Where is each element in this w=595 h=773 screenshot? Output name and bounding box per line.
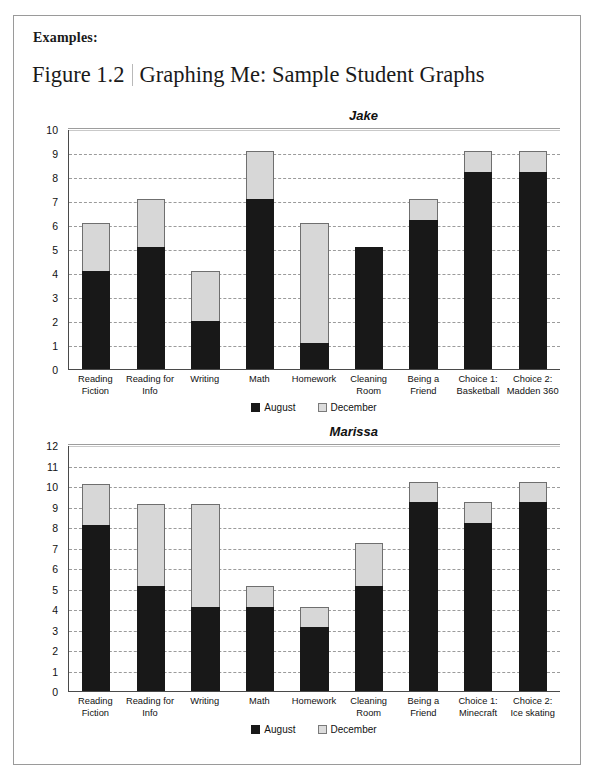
bar-segment-august [300, 627, 328, 691]
bar-segment-august [82, 525, 110, 691]
bar-slot [342, 130, 397, 369]
plot-marissa [68, 446, 560, 692]
stacked-bar[interactable] [355, 543, 383, 691]
stacked-bar[interactable] [409, 199, 437, 369]
stacked-bar[interactable] [246, 586, 274, 691]
x-axis-label-line: Room [342, 708, 395, 720]
x-axis-label: Math [232, 696, 287, 719]
bar-segment-august [300, 343, 328, 369]
bar-segment-august [191, 321, 219, 369]
x-axis-label-line: Being a [397, 374, 450, 386]
legend-label-december: December [331, 724, 377, 735]
legend-label-august: August [264, 402, 295, 413]
x-axis-label-line: Choice 2: [506, 696, 559, 708]
bar-segment-august [409, 220, 437, 369]
legend-swatch-december-icon [318, 725, 327, 734]
legend-item-august: August [251, 724, 295, 735]
x-axis-label-line: Room [342, 386, 395, 398]
stacked-bar[interactable] [137, 504, 165, 691]
stacked-bar[interactable] [82, 484, 110, 691]
bar-segment-december [137, 199, 165, 247]
stacked-bar[interactable] [191, 504, 219, 691]
y-tick-label: 7 [52, 543, 58, 555]
x-axis-label-line: Info [124, 386, 177, 398]
y-tick-label: 2 [52, 645, 58, 657]
bar-segment-august [246, 607, 274, 691]
stacked-bar[interactable] [82, 223, 110, 369]
stacked-bar[interactable] [137, 199, 165, 369]
bar-slot [178, 446, 233, 691]
x-axis-label-line: Friend [397, 386, 450, 398]
x-axis-label-line: Math [233, 696, 286, 708]
stacked-bar[interactable] [191, 271, 219, 369]
legend-swatch-august-icon [251, 725, 260, 734]
stacked-bar[interactable] [355, 247, 383, 369]
figure-title: Figure 1.2 Graphing Me: Sample Student G… [32, 62, 484, 88]
x-axis-label-line: Fiction [69, 708, 122, 720]
bar-group-marissa [69, 446, 560, 691]
y-tick-label: 8 [52, 522, 58, 534]
x-axis-label: Homework [287, 696, 342, 719]
y-tick-label: 6 [52, 220, 58, 232]
x-axis-label-line: Choice 1: [452, 696, 505, 708]
bar-segment-august [82, 271, 110, 369]
x-axis-label-line: Info [124, 708, 177, 720]
x-axis-label-line: Homework [288, 374, 341, 386]
bar-group-jake [69, 130, 560, 369]
examples-heading: Examples: [33, 30, 98, 46]
stacked-bar[interactable] [246, 151, 274, 369]
stacked-bar[interactable] [300, 607, 328, 691]
legend-jake: August December [68, 402, 560, 413]
chart-marissa: Marissa 0123456789101112 ReadingFictionR… [28, 424, 568, 744]
legend-swatch-december-icon [318, 403, 327, 412]
y-tick-label: 4 [52, 604, 58, 616]
bar-segment-august [246, 199, 274, 369]
figure-number: Figure 1.2 [32, 62, 125, 88]
bar-segment-august [519, 172, 547, 369]
legend-swatch-august-icon [251, 403, 260, 412]
stacked-bar[interactable] [464, 502, 492, 691]
bar-slot [69, 446, 124, 691]
bar-segment-december [137, 504, 165, 586]
stacked-bar[interactable] [519, 151, 547, 369]
bar-slot [178, 130, 233, 369]
x-axis-label-line: Being a [397, 696, 450, 708]
x-axis-label-line: Reading [69, 374, 122, 386]
bar-slot [396, 446, 451, 691]
x-axis-label-line: Basketball [452, 386, 505, 398]
x-axis-label-line: Friend [397, 708, 450, 720]
y-tick-label: 3 [52, 292, 58, 304]
bar-segment-december [82, 484, 110, 525]
bar-segment-december [82, 223, 110, 271]
legend-label-august: August [264, 724, 295, 735]
x-axis-label: CleaningRoom [341, 374, 396, 397]
bar-segment-august [191, 607, 219, 691]
bar-slot [396, 130, 451, 369]
x-axis-labels-marissa: ReadingFictionReading forInfoWritingMath… [68, 696, 560, 719]
legend-marissa: August December [68, 724, 560, 735]
x-axis-label: Homework [287, 374, 342, 397]
stacked-bar[interactable] [409, 482, 437, 691]
y-tick-label: 3 [52, 625, 58, 637]
stacked-bar[interactable] [519, 482, 547, 691]
bar-segment-august [355, 586, 383, 691]
bar-segment-august [464, 523, 492, 691]
figure-title-text: Graphing Me: Sample Student Graphs [140, 62, 485, 88]
x-axis-label-line: Minecraft [452, 708, 505, 720]
y-axis-marissa: 0123456789101112 [28, 446, 62, 692]
bar-slot [451, 446, 506, 691]
stacked-bar[interactable] [300, 223, 328, 369]
bar-segment-august [519, 502, 547, 691]
bar-slot [233, 130, 288, 369]
bar-slot [506, 446, 561, 691]
legend-item-august: August [251, 402, 295, 413]
bar-slot [69, 130, 124, 369]
bar-segment-august [137, 586, 165, 691]
plot-jake [68, 130, 560, 370]
x-axis-label-line: Reading [69, 696, 122, 708]
stacked-bar[interactable] [464, 151, 492, 369]
bar-segment-december [464, 502, 492, 523]
y-tick-label: 10 [46, 481, 58, 493]
bar-segment-august [355, 247, 383, 369]
bar-segment-december [246, 151, 274, 199]
